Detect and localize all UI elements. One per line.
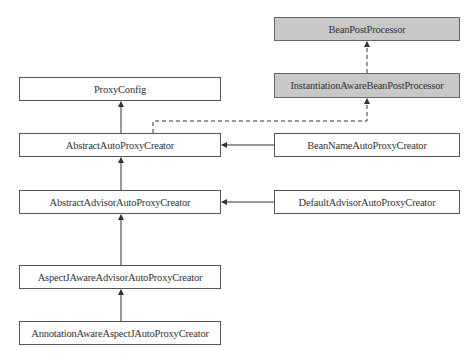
node-bean-name-auto-proxy-creator: BeanNameAutoProxyCreator bbox=[274, 133, 460, 157]
node-instantiation-aware-bean-post-processor: InstantiationAwareBeanPostProcessor bbox=[274, 73, 460, 98]
node-abstract-advisor-auto-proxy-creator: AbstractAdvisorAutoProxyCreator bbox=[19, 190, 221, 214]
node-default-advisor-auto-proxy-creator: DefaultAdvisorAutoProxyCreator bbox=[274, 190, 460, 214]
edges-layer bbox=[0, 0, 473, 358]
node-aspectj-aware-advisor-auto-proxy-creator: AspectJAwareAdvisorAutoProxyCreator bbox=[19, 265, 221, 289]
node-abstract-auto-proxy-creator: AbstractAutoProxyCreator bbox=[19, 133, 221, 157]
edge-aapc-iabpp bbox=[153, 99, 367, 133]
node-annotation-aware-aspectj-auto-proxy-creator: AnnotationAwareAspectJAutoProxyCreator bbox=[19, 321, 221, 345]
node-bean-post-processor: BeanPostProcessor bbox=[274, 17, 460, 41]
node-proxy-config: ProxyConfig bbox=[19, 77, 221, 101]
